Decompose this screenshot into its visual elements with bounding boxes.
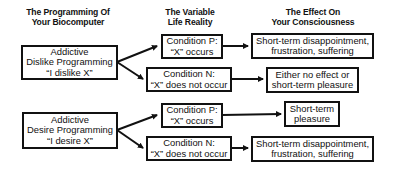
desire-line3: “I desire X” — [47, 136, 93, 147]
dislike-p-effect-line2: frustration, suffering — [271, 46, 354, 57]
desire-n-effect-line2: frustration, suffering — [271, 149, 354, 160]
dislike-n-line2: “X” does not occur — [151, 80, 228, 91]
desire-p-effect-box: Short-term pleasure — [284, 101, 340, 127]
desire-p-line1: Condition P: — [166, 105, 217, 116]
dislike-condition-n-box: Condition N: “X” does not occur — [146, 67, 232, 92]
dislike-programming-box: Addictive Dislike Programming “I dislike… — [21, 45, 118, 80]
dislike-n-effect-box: Either no effect or short-term pleasure — [266, 67, 359, 93]
dislike-n-effect-line2: short-term pleasure — [272, 80, 353, 91]
dislike-line3: “I dislike X” — [46, 68, 92, 79]
desire-p-line2: “X” occurs — [171, 116, 214, 127]
desire-n-effect-box: Short-term disappointment, frustration, … — [251, 136, 374, 162]
desire-n-line1: Condition N: — [163, 138, 215, 149]
dislike-condition-p-box: Condition P: “X” occurs — [161, 34, 223, 59]
dislike-p-line1: Condition P: — [166, 36, 217, 47]
dislike-p-effect-box: Short-term disappointment, frustration, … — [251, 33, 374, 59]
desire-programming-box: Addictive Desire Programming “I desire X… — [22, 112, 118, 149]
desire-condition-p-box: Condition P: “X” occurs — [161, 103, 223, 128]
desire-p-effect-line2: pleasure — [294, 114, 330, 125]
desire-condition-n-box: Condition N: “X” does not occur — [146, 136, 232, 161]
desire-n-line2: “X” does not occur — [151, 149, 228, 160]
dislike-n-line1: Condition N: — [163, 69, 215, 80]
dislike-p-line2: “X” occurs — [171, 47, 214, 58]
